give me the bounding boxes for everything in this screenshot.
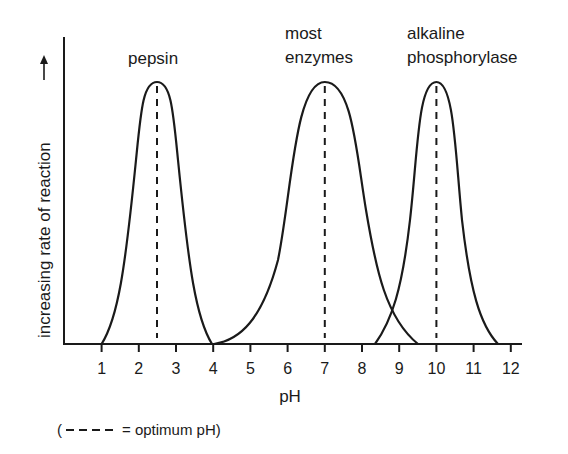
tick-label: 1	[97, 360, 106, 377]
tick-label: 5	[246, 360, 255, 377]
tick-label: 9	[395, 360, 404, 377]
y-axis-arrowhead-icon	[40, 55, 48, 64]
tick-label: 4	[209, 360, 218, 377]
y-axis-label: increasing rate of reaction	[35, 142, 54, 338]
tick-label: 8	[358, 360, 367, 377]
legend: ( = optimum pH)	[57, 421, 221, 438]
tick-label: 10	[428, 360, 446, 377]
most-enzymes-label-line2: enzymes	[285, 48, 353, 67]
tick-label: 6	[283, 360, 292, 377]
alkaline-label-line2: phosphorylase	[407, 48, 518, 67]
enzyme-ph-chart: 1 2 3 4 5 6 7 8 9 10 11 12 pH increasing…	[0, 0, 568, 454]
most-enzymes-curve	[214, 82, 418, 344]
most-enzymes-label-line1: most	[285, 24, 322, 43]
tick-label: 3	[172, 360, 181, 377]
x-tick-labels: 1 2 3 4 5 6 7 8 9 10 11 12	[97, 360, 520, 377]
pepsin-label: pepsin	[128, 49, 178, 68]
pepsin-curve	[102, 82, 212, 344]
tick-label: 12	[502, 360, 520, 377]
tick-label: 11	[465, 360, 482, 377]
x-ticks	[102, 344, 511, 352]
alkaline-label-line1: alkaline	[407, 24, 465, 43]
tick-label: 7	[320, 360, 329, 377]
legend-open-paren: (	[57, 421, 62, 438]
alkaline-phosphorylase-curve	[375, 82, 498, 344]
x-axis-label: pH	[279, 387, 301, 406]
tick-label: 2	[134, 360, 143, 377]
legend-text: = optimum pH)	[122, 421, 221, 438]
y-axis-label-group: increasing rate of reaction	[35, 55, 54, 338]
